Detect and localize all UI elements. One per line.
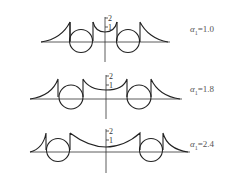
loop-left <box>70 30 93 53</box>
label-alpha-1-8: α1=1.8 <box>190 84 214 96</box>
tick-label-1: 1 <box>109 136 113 145</box>
label-alpha-2-4: α1=2.4 <box>190 139 214 151</box>
alpha-value: =1.0 <box>198 24 214 34</box>
loop-right <box>140 139 163 162</box>
loop-left <box>47 139 70 162</box>
panel-alpha-1-8: 2 1 <box>30 72 182 119</box>
tick-label-1: 1 <box>109 81 113 90</box>
tick-label-2: 2 <box>108 14 112 23</box>
loop-right <box>127 85 151 109</box>
tick-label-2: 2 <box>109 127 113 136</box>
panel-alpha-2-4: 2 1 <box>30 127 190 173</box>
loop-right <box>117 30 140 53</box>
tick-label-2: 2 <box>109 72 113 81</box>
curve <box>41 22 168 42</box>
loop-left <box>59 85 83 109</box>
alpha-value: =1.8 <box>198 84 214 94</box>
panel-alpha-1-0: 2 1 <box>41 14 170 62</box>
curve <box>30 79 180 99</box>
alpha-value: =2.4 <box>198 139 214 149</box>
label-alpha-1-0: α1=1.0 <box>190 24 214 36</box>
